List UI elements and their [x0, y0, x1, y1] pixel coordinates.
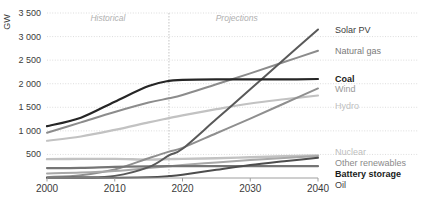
x-axis-tick-label: 2040	[307, 183, 330, 194]
legend-label-coal: Coal	[335, 74, 355, 84]
y-axis-tick-label: 2 000	[18, 79, 41, 89]
legend-label-natural-gas: Natural gas	[335, 46, 382, 56]
y-axis-tick-label: 2 500	[18, 55, 41, 65]
y-axis-tick-label: 500	[26, 149, 41, 159]
y-axis-tick-label: 1 500	[18, 102, 41, 112]
legend-label-nuclear: Nuclear	[335, 147, 366, 157]
y-axis-tick-label: 3 000	[18, 32, 41, 42]
period-annotation: Historical	[90, 13, 126, 23]
x-axis-tick-label: 2000	[36, 183, 59, 194]
series-line-wind	[47, 88, 318, 177]
series-line-coal	[47, 79, 318, 126]
y-axis-tick-label: 3 500	[18, 8, 41, 18]
x-axis-tick-label: 2010	[104, 183, 127, 194]
legend-label-oil: Oil	[335, 180, 346, 190]
x-axis-tick-label: 2030	[239, 183, 262, 194]
legend-label-battery-storage: Battery storage	[335, 169, 401, 179]
legend-label-solar-pv: Solar PV	[335, 25, 371, 35]
y-axis-title: GW	[2, 14, 12, 30]
legend-label-wind: Wind	[335, 84, 356, 94]
y-axis-tick-label: 1 000	[18, 126, 41, 136]
series-line-hydro	[47, 96, 318, 141]
period-annotation: Projections	[216, 13, 259, 23]
series-line-natural-gas	[47, 51, 318, 133]
legend-label-other-renewables: Other renewables	[335, 158, 407, 168]
line-chart: 3 5003 0002 5002 0001 5001 000500GWHisto…	[0, 0, 425, 201]
series-line-oil	[47, 166, 318, 168]
chart-container: 3 5003 0002 5002 0001 5001 000500GWHisto…	[0, 0, 425, 201]
legend-label-hydro: Hydro	[335, 101, 359, 111]
x-axis-tick-label: 2020	[171, 183, 194, 194]
